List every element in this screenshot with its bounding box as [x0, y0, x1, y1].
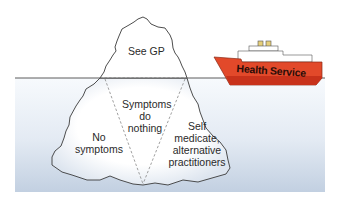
label-line: symptoms: [75, 143, 123, 155]
label-see-gp: See GP: [128, 45, 165, 57]
iceberg-diagram: See GP Symptoms do nothing No symptoms S…: [0, 0, 342, 201]
label-line: alternative: [161, 144, 233, 156]
label-line: practitioners: [161, 156, 233, 168]
label-self-medicate: Self medicate, alternative practitioners: [161, 120, 233, 168]
label-line: Symptoms: [122, 98, 168, 110]
label-line: medicate,: [161, 132, 233, 144]
label-line: Self: [161, 120, 233, 132]
ship-upper-deck: [249, 46, 278, 51]
ship-hull-stripe: [226, 76, 322, 85]
label-line: No: [75, 131, 123, 143]
label-no-symptoms: No symptoms: [75, 131, 123, 155]
ship-superstructure: [238, 51, 312, 62]
